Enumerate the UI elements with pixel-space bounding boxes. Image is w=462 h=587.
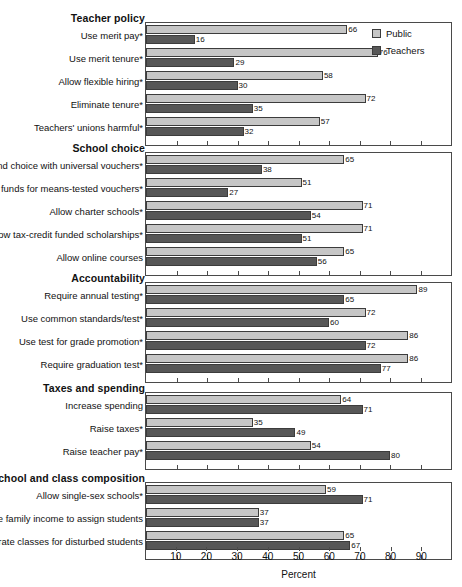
bar-public: 54 [146,441,311,450]
panel-plot-area: Require annual testing*8965Use common st… [145,282,452,383]
chart-row: Use test for grade promotion*8672 [146,330,451,354]
bar-public: 65 [146,155,344,164]
tick-mark [268,465,269,469]
chart-row: Allow single-sex schools*5971 [146,484,451,508]
tick-mark [238,271,239,275]
panel-plot-area: Expand choice with universal vouchers*65… [145,152,452,276]
bar-public: 66 [146,25,347,34]
bar-value-label: 65 [345,532,354,540]
tick-mark [268,141,269,145]
category-label: Use merit pay* [81,31,143,41]
bar-teachers: 30 [146,81,238,90]
tick-mark [360,378,361,382]
panel-title: School choice [73,142,145,154]
tick-mark [177,378,178,382]
chart-row: Allow flexible hiring*5830 [146,70,451,94]
panel-tick-strip [146,141,451,145]
x-axis-tick-label: 40 [262,552,273,562]
bar-teachers: 54 [146,211,311,220]
x-axis-title: Percent [281,569,315,580]
tick-mark [421,378,422,382]
bar-value-label: 65 [345,156,354,164]
bar-value-label: 65 [345,248,354,256]
panel-tick-strip [146,465,451,469]
category-label: Increase spending [65,401,143,411]
bar-value-label: 71 [364,225,373,233]
legend-label-public: Public [386,28,412,39]
bar-teachers: 80 [146,451,390,460]
bar-value-label: 72 [367,342,376,350]
category-label: Use common standards/test* [21,314,143,324]
bar-value-label: 57 [321,118,330,126]
bar-value-label: 80 [391,452,400,460]
bar-value-label: 86 [409,332,418,340]
bar-public: 51 [146,178,302,187]
bar-public: 72 [146,308,366,317]
bar-teachers: 60 [146,318,329,327]
x-axis-tick-label: 70 [354,552,365,562]
category-label: Allow tax-credit funded scholarships* [0,230,143,240]
bar-value-label: 59 [327,486,336,494]
chart-row: Raise taxes*3549 [146,417,451,441]
bar-value-label: 29 [235,59,244,67]
bar-teachers: 35 [146,104,253,113]
category-label: Use merit tenure* [69,54,143,64]
tick-mark [207,141,208,145]
bar-value-label: 65 [345,296,354,304]
category-label: Allow online courses [56,253,143,263]
tick-mark [329,465,330,469]
bar-value-label: 86 [409,355,418,363]
bar-public: 57 [146,117,320,126]
bar-teachers: 71 [146,495,363,504]
bar-value-label: 27 [229,189,238,197]
chart-row: Teachers' unions harmful*5732 [146,116,451,140]
bar-value-label: 51 [303,235,312,243]
bar-value-label: 37 [260,519,269,527]
bar-public: 86 [146,331,408,340]
legend-swatch-public-icon [372,29,381,38]
bar-value-label: 71 [364,406,373,414]
chart-row: Require annual testing*8965 [146,284,451,308]
tick-mark [299,465,300,469]
bar-public: 89 [146,285,417,294]
bar-value-label: 16 [196,36,205,44]
tick-mark [421,465,422,469]
category-label: Allow single-sex schools* [36,491,143,501]
bar-value-label: 30 [239,82,248,90]
bar-value-label: 89 [418,286,427,294]
tick-mark [421,141,422,145]
chart-row: Use common standards/test*7260 [146,307,451,331]
bar-public: 76 [146,48,378,57]
category-label: Expand choice with universal vouchers* [0,161,143,171]
tick-mark [299,141,300,145]
chart-row: Expand choice with universal vouchers*65… [146,154,451,178]
category-label: Use family income to assign students [0,514,143,524]
bar-public: 58 [146,71,323,80]
bar-value-label: 64 [342,396,351,404]
tick-mark [329,271,330,275]
bar-public: 72 [146,94,366,103]
bar-value-label: 38 [263,166,272,174]
bar-teachers: 32 [146,127,244,136]
tick-mark [238,465,239,469]
tick-mark [360,141,361,145]
x-axis-tick-label: 60 [324,552,335,562]
tick-mark [360,465,361,469]
category-label: Allow charter schools* [50,207,143,217]
tick-mark [329,378,330,382]
bar-teachers: 65 [146,295,344,304]
category-label: Teachers' unions harmful* [34,123,143,133]
chart-row: Use family income to assign students3737 [146,507,451,531]
tick-mark [207,378,208,382]
bar-value-label: 35 [254,105,263,113]
bar-value-label: 58 [324,72,333,80]
category-label: Eliminate tenure* [71,100,143,110]
bar-teachers: 27 [146,188,228,197]
bar-teachers: 29 [146,58,234,67]
bar-value-label: 72 [367,95,376,103]
tick-mark [268,378,269,382]
bar-public: 65 [146,531,344,540]
tick-mark [268,271,269,275]
x-axis-tick-label: 50 [293,552,304,562]
tick-mark [177,141,178,145]
